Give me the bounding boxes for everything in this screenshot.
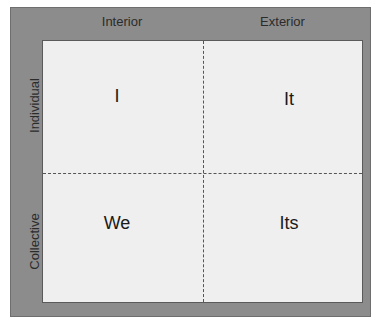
row-label-collective: Collective bbox=[27, 202, 42, 282]
column-label-interior: Interior bbox=[42, 14, 202, 29]
quadrant-bottom-left: We bbox=[97, 213, 137, 234]
vertical-divider bbox=[203, 41, 204, 302]
quadrant-top-right: It bbox=[269, 89, 309, 110]
column-label-exterior: Exterior bbox=[202, 14, 363, 29]
row-label-individual: Individual bbox=[27, 66, 42, 146]
quadrant-top-left: I bbox=[97, 86, 137, 107]
quadrant-grid: I It We Its bbox=[42, 40, 363, 303]
quadrant-bottom-right: Its bbox=[269, 213, 309, 234]
horizontal-divider bbox=[43, 173, 362, 174]
